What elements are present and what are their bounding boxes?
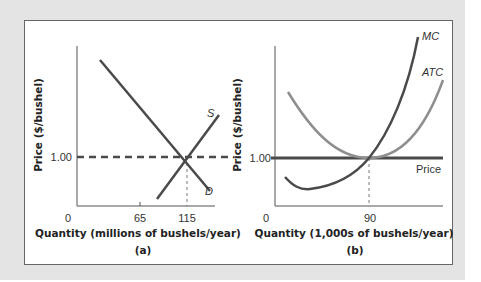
x-axis-label-b: Quantity (1,000s of bushels/year) [254, 227, 453, 239]
x-tick-115: 115 [178, 212, 196, 224]
panel-label-a: (a) [135, 244, 152, 256]
x-axis-label-a: Quantity (millions of bushels/year) [35, 227, 241, 239]
mc-label: MC [422, 30, 439, 42]
x-tick-65: 65 [134, 212, 146, 224]
d-label: D [205, 185, 213, 197]
chart-a: S D 1.00 0 65 115 Quantity (millions of … [32, 46, 241, 256]
x-tick-90: 90 [364, 212, 376, 224]
chart-canvas: S D 1.00 0 65 115 Quantity (millions of … [0, 0, 481, 282]
s-label: S [207, 107, 215, 119]
mc-curve [285, 37, 418, 189]
panel-label-b: (b) [346, 244, 363, 256]
atc-curve [288, 80, 443, 158]
chart-b: MC ATC Price 1.00 0 90 Quantity (1,000s … [231, 30, 454, 256]
y-axis-label-a: Price ($/bushel) [32, 78, 44, 172]
y-axis-label-b: Price ($/bushel) [231, 78, 243, 172]
atc-label: ATC [421, 66, 443, 78]
y-tick-1-00: 1.00 [51, 151, 72, 163]
demand-curve [100, 60, 210, 191]
x-tick-0: 0 [65, 212, 71, 224]
price-label: Price [416, 163, 441, 175]
y-tick-1-00-b: 1.00 [250, 152, 271, 164]
x-tick-0-b: 0 [263, 212, 269, 224]
